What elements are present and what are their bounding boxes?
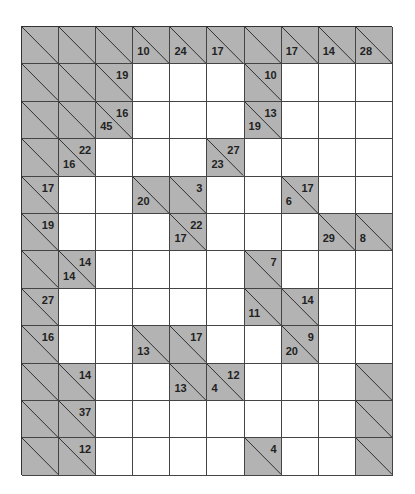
entry-cell[interactable] — [207, 289, 244, 326]
clue-cell: 17 — [22, 177, 59, 214]
entry-cell[interactable] — [96, 214, 133, 251]
entry-cell[interactable] — [170, 289, 207, 326]
entry-cell[interactable] — [245, 177, 282, 214]
across-clue: 37 — [79, 407, 91, 418]
entry-cell[interactable] — [133, 64, 170, 101]
entry-cell[interactable] — [59, 326, 96, 363]
entry-cell[interactable] — [319, 289, 356, 326]
entry-cell[interactable] — [133, 102, 170, 139]
clue-cell: 37 — [59, 401, 96, 438]
diagonal-divider-icon — [22, 401, 58, 437]
diagonal-divider-icon — [22, 251, 58, 287]
entry-cell[interactable] — [96, 438, 133, 475]
entry-cell[interactable] — [207, 214, 244, 251]
entry-cell[interactable] — [356, 177, 393, 214]
entry-cell[interactable] — [356, 326, 393, 363]
entry-cell[interactable] — [319, 139, 356, 176]
entry-cell[interactable] — [319, 64, 356, 101]
clue-cell: 27 — [22, 289, 59, 326]
clue-cell: 4 — [245, 438, 282, 475]
entry-cell[interactable] — [207, 251, 244, 288]
entry-cell[interactable] — [319, 364, 356, 401]
block-cell — [22, 64, 59, 101]
entry-cell[interactable] — [96, 326, 133, 363]
entry-cell[interactable] — [319, 401, 356, 438]
entry-cell[interactable] — [282, 102, 319, 139]
entry-cell[interactable] — [59, 177, 96, 214]
entry-cell[interactable] — [245, 139, 282, 176]
clue-cell: 920 — [282, 326, 319, 363]
entry-cell[interactable] — [282, 64, 319, 101]
entry-cell[interactable] — [96, 139, 133, 176]
diagonal-divider-icon — [245, 27, 281, 63]
entry-cell[interactable] — [245, 364, 282, 401]
across-clue: 17 — [42, 183, 54, 194]
entry-cell[interactable] — [356, 102, 393, 139]
entry-cell[interactable] — [133, 251, 170, 288]
entry-cell[interactable] — [356, 64, 393, 101]
entry-cell[interactable] — [133, 364, 170, 401]
entry-cell[interactable] — [96, 177, 133, 214]
entry-cell[interactable] — [245, 401, 282, 438]
entry-cell[interactable] — [96, 289, 133, 326]
entry-cell[interactable] — [170, 64, 207, 101]
entry-cell[interactable] — [133, 289, 170, 326]
down-clue: 10 — [137, 46, 149, 57]
entry-cell[interactable] — [319, 438, 356, 475]
across-clue: 19 — [116, 70, 128, 81]
entry-cell[interactable] — [207, 177, 244, 214]
entry-cell[interactable] — [356, 289, 393, 326]
entry-cell[interactable] — [319, 177, 356, 214]
entry-cell[interactable] — [207, 401, 244, 438]
clue-cell: 29 — [319, 214, 356, 251]
entry-cell[interactable] — [96, 364, 133, 401]
block-cell — [22, 102, 59, 139]
entry-cell[interactable] — [59, 214, 96, 251]
entry-cell[interactable] — [356, 251, 393, 288]
entry-cell[interactable] — [96, 401, 133, 438]
block-cell — [22, 251, 59, 288]
across-clue: 14 — [79, 257, 91, 268]
entry-cell[interactable] — [170, 251, 207, 288]
entry-cell[interactable] — [245, 214, 282, 251]
entry-cell[interactable] — [170, 401, 207, 438]
diagonal-divider-icon — [356, 438, 392, 474]
entry-cell[interactable] — [319, 326, 356, 363]
clue-cell: 124 — [207, 364, 244, 401]
clue-cell: 19 — [22, 214, 59, 251]
entry-cell[interactable] — [170, 438, 207, 475]
across-clue: 17 — [302, 183, 314, 194]
diagonal-divider-icon — [59, 64, 95, 100]
entry-cell[interactable] — [133, 139, 170, 176]
entry-cell[interactable] — [133, 214, 170, 251]
entry-cell[interactable] — [96, 251, 133, 288]
entry-cell[interactable] — [282, 139, 319, 176]
block-cell — [356, 364, 393, 401]
clue-cell: 28 — [356, 27, 393, 64]
entry-cell[interactable] — [207, 326, 244, 363]
entry-cell[interactable] — [133, 438, 170, 475]
diagonal-divider-icon — [22, 27, 58, 63]
entry-cell[interactable] — [282, 214, 319, 251]
across-clue: 12 — [79, 444, 91, 455]
entry-cell[interactable] — [207, 438, 244, 475]
entry-cell[interactable] — [133, 401, 170, 438]
entry-cell[interactable] — [282, 364, 319, 401]
entry-cell[interactable] — [282, 251, 319, 288]
across-clue: 19 — [42, 220, 54, 231]
entry-cell[interactable] — [207, 64, 244, 101]
block-cell — [59, 27, 96, 64]
entry-cell[interactable] — [319, 102, 356, 139]
entry-cell[interactable] — [282, 401, 319, 438]
entry-cell[interactable] — [59, 289, 96, 326]
entry-cell[interactable] — [170, 102, 207, 139]
down-clue: 45 — [100, 121, 112, 132]
entry-cell[interactable] — [282, 438, 319, 475]
down-clue: 14 — [63, 271, 75, 282]
entry-cell[interactable] — [245, 326, 282, 363]
entry-cell[interactable] — [207, 102, 244, 139]
entry-cell[interactable] — [356, 139, 393, 176]
entry-cell[interactable] — [170, 139, 207, 176]
entry-cell[interactable] — [319, 251, 356, 288]
down-clue: 20 — [286, 346, 298, 357]
